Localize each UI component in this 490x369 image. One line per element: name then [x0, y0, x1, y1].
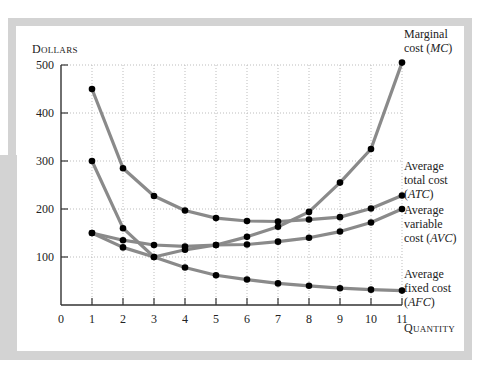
x-tick-label: 4 [182, 312, 188, 326]
data-point [151, 254, 158, 261]
x-tick-label: 7 [275, 312, 281, 326]
data-point [337, 179, 344, 186]
data-point [182, 243, 189, 250]
afc-label: Averagefixed cost(AFC) [404, 267, 452, 309]
data-point [275, 280, 282, 287]
avc-label: Averagevariablecost (AVC) [404, 203, 456, 245]
data-point [89, 230, 96, 237]
x-tick-label: 1 [89, 312, 95, 326]
data-point [337, 228, 344, 235]
data-point [89, 158, 96, 165]
x-tick-label: 6 [244, 312, 250, 326]
atc-label: Averagetotal cost(ATC) [404, 159, 448, 201]
y-tick-label: 200 [36, 202, 54, 216]
curve-labels: Marginalcost (MC)Averagetotal cost(ATC)A… [404, 27, 456, 309]
data-point [337, 285, 344, 292]
data-point [275, 218, 282, 225]
data-point [368, 205, 375, 212]
data-point [368, 219, 375, 226]
y-tick-label: 300 [36, 154, 54, 168]
y-axis-title: DOLLARS [32, 42, 78, 56]
x-tick-label: 8 [306, 312, 312, 326]
data-point [213, 242, 220, 249]
origin-label: 0 [58, 312, 64, 326]
mc-label: Marginalcost (MC) [404, 27, 452, 55]
data-point [120, 237, 127, 244]
data-point [213, 272, 220, 279]
y-tick-label: 500 [36, 58, 54, 72]
data-point [89, 86, 96, 93]
data-point [120, 165, 127, 172]
data-point [368, 286, 375, 293]
data-point [213, 215, 220, 222]
y-tick-label: 400 [36, 106, 54, 120]
data-point [306, 235, 313, 242]
data-point [368, 146, 375, 153]
y-tick-label: 100 [36, 250, 54, 264]
grid-lines [61, 65, 402, 305]
data-point [337, 214, 344, 221]
data-point [306, 216, 313, 223]
x-axis-title: QUANTITY [404, 321, 455, 335]
x-tick-label: 3 [151, 312, 157, 326]
data-point [182, 207, 189, 214]
data-point [120, 244, 127, 251]
x-tick-label: 10 [365, 312, 377, 326]
data-point [306, 283, 313, 290]
x-tick-label: 5 [213, 312, 219, 326]
cost-curves-chart: 1002003004005001234567891011 DOLLARS QUA… [0, 0, 490, 369]
data-point [182, 264, 189, 271]
x-tick-label: 2 [120, 312, 126, 326]
data-point [151, 242, 158, 249]
data-point [120, 225, 127, 232]
data-point [399, 59, 406, 66]
data-point [244, 218, 251, 225]
data-point [244, 276, 251, 283]
data-point [244, 241, 251, 248]
data-point [306, 209, 313, 216]
x-tick-label: 9 [337, 312, 343, 326]
data-point [151, 193, 158, 200]
data-point [275, 238, 282, 245]
data-point [244, 234, 251, 241]
